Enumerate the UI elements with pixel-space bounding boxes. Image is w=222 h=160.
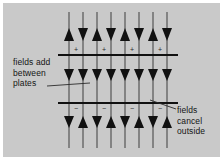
arrow-up: [64, 28, 74, 41]
arrow-row-above-top-plate: [64, 28, 172, 41]
arrow-down: [134, 28, 144, 41]
arrow-up: [162, 116, 172, 128]
arrow-down: [64, 69, 74, 81]
arrow-down: [120, 116, 130, 128]
arrow-up: [106, 116, 116, 128]
arrow-down: [106, 28, 116, 41]
arrow-row-below-bottom-plate: [64, 116, 172, 128]
arrow-up: [92, 28, 102, 41]
label-line: cancel: [177, 116, 205, 127]
minus-charge: −: [102, 105, 106, 112]
label-line: fields: [177, 105, 205, 116]
fields-add-between-plates-label: fields add between plates: [13, 57, 50, 89]
label-line: fields add: [13, 57, 50, 68]
plus-charge: +: [74, 46, 78, 53]
positive-charges-group: + + + +: [74, 46, 162, 53]
arrow-down: [120, 69, 130, 81]
arrow-down: [162, 28, 172, 41]
minus-charge: −: [74, 105, 78, 112]
arrow-up: [120, 28, 130, 41]
arrow-row-between-plates: [64, 69, 172, 81]
arrow-up: [134, 116, 144, 128]
arrow-up: [148, 28, 158, 41]
arrow-down: [106, 69, 116, 81]
arrow-down: [78, 69, 88, 81]
label-line: outside: [177, 126, 205, 137]
minus-charge: −: [130, 105, 134, 112]
arrow-down: [134, 69, 144, 81]
plus-charge: +: [102, 46, 106, 53]
arrow-down: [92, 116, 102, 128]
arrow-down: [162, 69, 172, 81]
label-line: plates: [13, 78, 50, 89]
label-line: between: [13, 68, 50, 79]
figure-screenshot: + + + + − − − −: [0, 0, 222, 160]
fields-cancel-outside-label: fields cancel outside: [177, 105, 205, 137]
arrow-down: [148, 116, 158, 128]
arrow-down: [64, 116, 74, 128]
arrow-down: [148, 69, 158, 81]
arrow-down: [92, 69, 102, 81]
plus-charge: +: [158, 46, 162, 53]
arrow-up: [78, 116, 88, 128]
plus-charge: +: [130, 46, 134, 53]
minus-charge: −: [158, 105, 162, 112]
right-leader-line: [150, 100, 176, 109]
arrow-down: [78, 28, 88, 41]
negative-charges-group: − − − −: [74, 105, 162, 112]
